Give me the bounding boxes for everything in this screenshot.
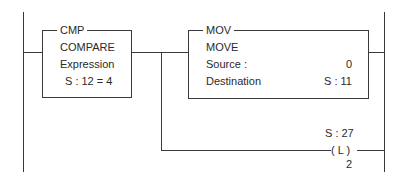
left-power-rail: [23, 12, 24, 172]
latch-coil[interactable]: ( L ): [331, 144, 350, 157]
branch-wire-to-coil: [161, 150, 331, 151]
cmp-name: COMPARE: [60, 41, 115, 54]
latch-coil-address: S : 27: [325, 127, 354, 140]
rung-wire-right: [368, 52, 384, 53]
cmp-expression-value: S : 12 = 4: [65, 75, 112, 88]
cmp-expression-label: Expression: [60, 58, 114, 71]
mov-source-value: 0: [346, 58, 352, 71]
latch-coil-bit: 2: [346, 158, 352, 171]
cmp-compare-block[interactable]: CMP COMPARE Expression S : 12 = 4: [42, 30, 132, 98]
mov-source-label: Source :: [206, 58, 247, 71]
right-power-rail: [384, 12, 385, 172]
rung-wire-left: [23, 52, 42, 53]
cmp-mnemonic: CMP: [57, 24, 87, 36]
rung-wire-middle: [131, 52, 188, 53]
mov-move-block[interactable]: MOV MOVE Source : 0 Destination S : 11: [188, 30, 369, 99]
mov-mnemonic: MOV: [203, 24, 234, 36]
mov-name: MOVE: [206, 41, 238, 54]
mov-destination-value: S : 11: [324, 75, 352, 88]
mov-destination-label: Destination: [206, 75, 261, 88]
branch-wire-vertical: [161, 52, 162, 150]
branch-wire-from-coil: [357, 150, 384, 151]
